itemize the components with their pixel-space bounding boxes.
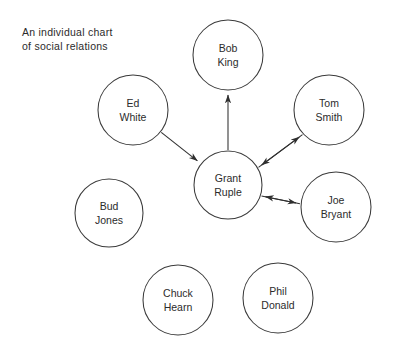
- node-grant-ruple[interactable]: GrantRuple: [194, 151, 262, 219]
- node-label-bud-jones-line-2: Jones: [95, 214, 123, 226]
- node-bob-king[interactable]: BobKing: [193, 20, 263, 90]
- node-label-chuck-hearn-line-1: Chuck: [163, 287, 194, 299]
- node-tom-smith[interactable]: TomSmith: [294, 75, 364, 145]
- node-label-chuck-hearn-line-2: Hearn: [164, 301, 193, 313]
- node-label-tom-smith-line-2: Smith: [316, 111, 343, 123]
- node-label-ed-white-line-1: Ed: [127, 97, 140, 109]
- caption-line-1: An individual chart: [22, 26, 113, 38]
- sociogram-diagram: An individual chart of social relations …: [0, 0, 400, 351]
- node-joe-bryant[interactable]: JoeBryant: [301, 172, 371, 242]
- node-label-bob-king-line-2: King: [217, 56, 238, 68]
- node-label-tom-smith-line-1: Tom: [319, 97, 339, 109]
- caption-line-2: of social relations: [22, 40, 108, 52]
- node-label-joe-bryant-line-1: Joe: [328, 194, 345, 206]
- sociogram-canvas: An individual chart of social relations …: [0, 0, 400, 351]
- edge-joe-bryant-to-grant-ruple: [265, 197, 300, 204]
- node-bud-jones[interactable]: BudJones: [75, 179, 143, 247]
- node-label-grant-ruple-line-1: Grant: [215, 172, 241, 184]
- nodes-layer: BobKingTomSmithJoeBryantEdWhiteGrantRupl…: [75, 20, 371, 335]
- node-label-joe-bryant-line-2: Bryant: [321, 208, 351, 220]
- node-label-phil-donald-line-1: Phil: [269, 285, 287, 297]
- node-phil-donald[interactable]: PhilDonald: [243, 263, 313, 333]
- node-label-phil-donald-line-2: Donald: [261, 299, 294, 311]
- edge-tom-smith-to-grant-ruple: [262, 135, 303, 165]
- node-label-bob-king-line-1: Bob: [219, 42, 238, 54]
- node-label-bud-jones-line-1: Bud: [100, 200, 119, 212]
- node-label-ed-white-line-2: White: [120, 111, 147, 123]
- node-chuck-hearn[interactable]: ChuckHearn: [143, 265, 213, 335]
- node-ed-white[interactable]: EdWhite: [98, 75, 168, 145]
- node-label-grant-ruple-line-2: Ruple: [214, 186, 242, 198]
- chart-caption: An individual chart of social relations: [22, 26, 113, 52]
- edge-ed-white-to-grant-ruple: [161, 132, 197, 161]
